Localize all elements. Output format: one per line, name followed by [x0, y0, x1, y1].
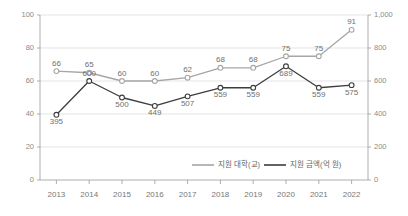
data-point-label: 689	[279, 69, 293, 78]
data-point[interactable]	[218, 65, 223, 70]
series-line	[56, 30, 351, 81]
data-point[interactable]	[284, 54, 289, 59]
data-point-label: 68	[216, 55, 225, 64]
x-tick-label: 2016	[146, 190, 164, 199]
x-tick-label: 2014	[80, 190, 98, 199]
y-tick-label-left: 40	[26, 109, 34, 118]
y-tick-label-left: 20	[26, 142, 34, 151]
y-tick-label-right: 200	[374, 142, 387, 151]
data-point[interactable]	[251, 65, 256, 70]
y-tick-label-left: 100	[21, 10, 34, 19]
y-tick-label-right: 0	[374, 175, 378, 184]
x-tick-label: 2020	[277, 190, 295, 199]
chart-container: 02040608010002004006008001,0002013201420…	[0, 0, 408, 216]
legend: 지원 대학(교)지원 금액(억 원)	[192, 159, 342, 169]
series-1: 66656060626868757591	[52, 17, 357, 83]
data-point[interactable]	[120, 79, 125, 84]
data-point-label: 449	[148, 108, 162, 117]
data-point-label: 559	[247, 90, 261, 99]
y-tick-label-left: 60	[26, 76, 34, 85]
series-line	[56, 66, 351, 115]
x-tick-label: 2018	[212, 190, 230, 199]
data-point-label: 75	[314, 44, 323, 53]
data-point-label: 575	[345, 88, 359, 97]
data-point-label: 600	[83, 69, 97, 78]
data-point-label: 68	[249, 55, 258, 64]
x-tick-label: 2022	[343, 190, 361, 199]
y-tick-label-left: 0	[30, 175, 34, 184]
data-point-label: 60	[150, 69, 159, 78]
x-tick-label: 2013	[48, 190, 66, 199]
y-tick-label-right: 600	[374, 76, 387, 85]
x-tick-label: 2017	[179, 190, 197, 199]
y-axis-right-ticks: 02004006008001,000	[368, 10, 393, 184]
data-point-label: 75	[282, 44, 291, 53]
data-point[interactable]	[87, 79, 92, 84]
data-point[interactable]	[349, 27, 354, 32]
y-tick-label-right: 400	[374, 109, 387, 118]
legend-label: 지원 대학(교)	[218, 159, 261, 169]
x-axis-ticks: 2013201420152016201720182019202020212022	[48, 180, 362, 199]
x-tick-label: 2019	[244, 190, 262, 199]
data-point-label: 559	[312, 90, 326, 99]
y-tick-label-left: 80	[26, 43, 34, 52]
data-point-label: 559	[214, 90, 228, 99]
data-point[interactable]	[316, 54, 321, 59]
x-tick-label: 2015	[113, 190, 131, 199]
data-point[interactable]	[185, 75, 190, 80]
legend-label: 지원 금액(억 원)	[290, 159, 342, 169]
data-point-label: 507	[181, 99, 195, 108]
data-point-label: 62	[183, 65, 192, 74]
y-axis-left-ticks: 020406080100	[21, 10, 40, 184]
data-point-label: 66	[52, 59, 61, 68]
data-point[interactable]	[54, 69, 59, 74]
data-point-label: 60	[118, 69, 127, 78]
line-chart: 02040608010002004006008001,0002013201420…	[0, 0, 408, 216]
x-tick-label: 2021	[310, 190, 328, 199]
data-point-label: 500	[115, 100, 129, 109]
y-tick-label-right: 1,000	[374, 10, 393, 19]
data-point[interactable]	[152, 79, 157, 84]
data-point-label: 91	[347, 17, 356, 26]
data-point-label: 395	[50, 117, 64, 126]
y-tick-label-right: 800	[374, 43, 387, 52]
